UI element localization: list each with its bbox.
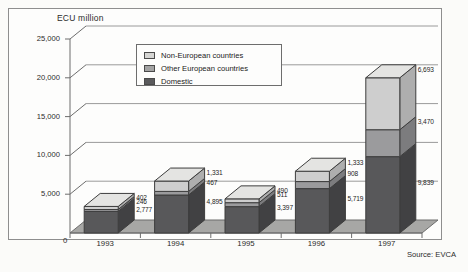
bar-1994-domestic-front [155, 195, 189, 233]
bar-1994-non-european-countries-front [155, 181, 189, 191]
gridline-connector-10000 [70, 142, 86, 155]
legend-item-non-european: Non-European countries [144, 49, 281, 61]
value-label-1996-non-european: 1,333 [347, 159, 363, 166]
figure-container: ECU million 25,00020,00015,00010,0005,00… [0, 0, 468, 272]
value-label-1994-domestic: 4,895 [207, 198, 223, 205]
value-label-1996-domestic: 5,719 [347, 195, 363, 202]
legend-label-non-european: Non-European countries [161, 51, 243, 60]
bar-1996-other-european-countries-front [295, 182, 329, 189]
gridline-connector-20000 [70, 65, 86, 78]
legend-swatch-domestic [144, 78, 155, 85]
legend-swatch-other-european [144, 65, 155, 72]
chart-3d-canvas [0, 0, 468, 272]
value-label-1993-other-european: 246 [136, 198, 147, 205]
value-label-1993-domestic: 2,777 [136, 206, 152, 213]
bar-1997-domestic-side [400, 144, 416, 233]
bar-1996-domestic-front [295, 189, 329, 233]
x-tick-label-1994: 1994 [156, 239, 196, 248]
y-tick-label-15000: 15,000 [18, 112, 60, 121]
source-note: Source: EVCA [407, 250, 456, 259]
bar-1995-non-european-countries-front [225, 199, 259, 203]
legend-swatch-non-european [144, 52, 155, 59]
value-label-1994-other-european: 467 [207, 179, 218, 186]
chart-legend: Non-European countries Other European co… [136, 44, 282, 86]
x-tick-label-1997: 1997 [367, 239, 407, 248]
bar-1997-domestic-front [366, 157, 400, 233]
legend-item-other-european: Other European countries [144, 62, 281, 74]
x-tick-label-1996: 1996 [296, 239, 336, 248]
value-label-1995-domestic: 3,397 [277, 204, 293, 211]
value-label-1996-other-european: 908 [347, 170, 358, 177]
gridline-connector-15000 [70, 104, 86, 117]
x-tick-label-1993: 1993 [85, 239, 125, 248]
legend-label-other-european: Other European countries [161, 64, 248, 73]
bar-1996-non-european-countries-front [295, 171, 329, 181]
bar-1995-other-european-countries-front [225, 203, 259, 207]
legend-label-domestic: Domestic [161, 77, 193, 86]
bar-1995-domestic-front [225, 207, 259, 233]
x-tick-label-1995: 1995 [226, 239, 266, 248]
value-label-1997-other-european: 3,470 [418, 118, 434, 125]
value-label-1994-non-european: 1,331 [207, 169, 223, 176]
bar-1997-non-european-countries-front [366, 78, 400, 130]
value-label-1997-domestic: 9,839 [418, 179, 434, 186]
y-tick-label-5000: 5,000 [18, 189, 60, 198]
bar-1994-other-european-countries-front [155, 191, 189, 195]
y-tick-label-10000: 10,000 [18, 150, 60, 159]
plot-area: 25,00020,00015,00010,0005,00004022462,77… [0, 0, 468, 272]
gridline-connector-25000 [70, 26, 86, 39]
gridline-connector-5000 [70, 181, 86, 194]
bar-1993-domestic-front [84, 211, 118, 233]
legend-item-domestic: Domestic [144, 75, 281, 87]
value-label-1997-non-european: 6,693 [418, 66, 434, 73]
bar-1997-other-european-countries-front [366, 130, 400, 157]
y-tick-label-25000: 25,000 [18, 34, 60, 43]
y-tick-label-0: 0 [63, 236, 67, 245]
y-tick-label-20000: 20,000 [18, 73, 60, 82]
value-label-1995-other-european: 511 [277, 191, 287, 198]
